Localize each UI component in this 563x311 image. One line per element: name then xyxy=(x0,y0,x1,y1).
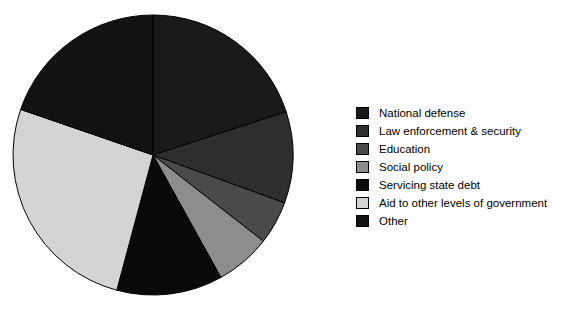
legend-item[interactable]: Law enforcement & security xyxy=(356,122,561,140)
pie-chart-plot-area xyxy=(8,8,303,303)
legend-item-label: Social policy xyxy=(379,161,443,174)
legend-item[interactable]: Other xyxy=(356,212,561,230)
legend-item[interactable]: Education xyxy=(356,140,561,158)
legend-item-label: Education xyxy=(379,143,430,156)
legend-item-label: National defense xyxy=(379,107,465,120)
legend-item-label: Aid to other levels of government xyxy=(379,197,547,210)
legend-item-label: Law enforcement & security xyxy=(379,125,521,138)
legend-swatch xyxy=(356,215,369,227)
legend-swatch xyxy=(356,197,369,209)
pie-chart-svg xyxy=(8,8,303,303)
pie-chart-figure: National defenseLaw enforcement & securi… xyxy=(0,0,563,311)
legend-item-label: Other xyxy=(379,215,408,228)
legend-swatch xyxy=(356,125,369,137)
legend-swatch xyxy=(356,179,369,191)
legend-swatch xyxy=(356,161,369,173)
legend-item-label: Servicing state debt xyxy=(379,179,480,192)
pie-slice-group xyxy=(13,15,293,295)
legend-swatch xyxy=(356,143,369,155)
legend-swatch xyxy=(356,107,369,119)
chart-legend: National defenseLaw enforcement & securi… xyxy=(356,104,561,230)
legend-item[interactable]: National defense xyxy=(356,104,561,122)
legend-item[interactable]: Servicing state debt xyxy=(356,176,561,194)
legend-item[interactable]: Aid to other levels of government xyxy=(356,194,561,212)
legend-item[interactable]: Social policy xyxy=(356,158,561,176)
